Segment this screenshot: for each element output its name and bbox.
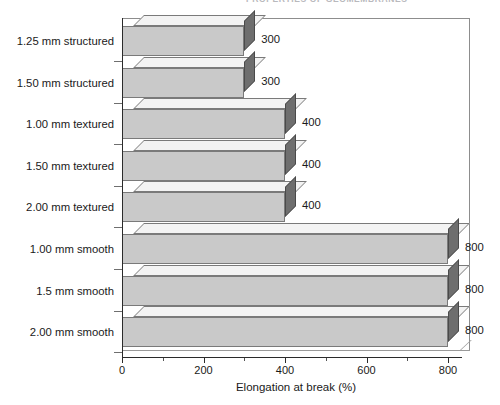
x-tick-label: 0 xyxy=(119,364,125,376)
bar-front-face xyxy=(122,151,285,181)
bar-value-label: 800 xyxy=(465,283,484,295)
y-axis-notch xyxy=(114,186,122,187)
bar-front-face xyxy=(122,234,448,264)
category-label-5: 2.00 mm textured xyxy=(0,201,114,213)
y-axis-notch xyxy=(114,311,122,312)
category-label-1: 1.25 mm structured xyxy=(0,35,114,47)
clipped-header-text: PROPERTIES OF GEOMEMBRANES xyxy=(246,0,500,4)
y-axis-notch xyxy=(114,227,122,228)
bar-value-label: 300 xyxy=(261,33,280,45)
bar-top-face xyxy=(133,98,307,109)
x-axis-line xyxy=(122,357,462,358)
bar-8 xyxy=(122,317,459,358)
bar-front-face xyxy=(122,26,244,56)
bar-value-label: 400 xyxy=(302,158,321,170)
y-axis-notch xyxy=(114,269,122,270)
bar-front-face xyxy=(122,276,448,306)
x-tick-label: 600 xyxy=(357,364,375,376)
bar-front-face xyxy=(122,192,285,222)
category-label-3: 1.00 mm textured xyxy=(0,118,114,130)
category-label-8: 2.00 mm smooth xyxy=(0,326,114,338)
bar-front-face xyxy=(122,68,244,98)
category-label-6: 1.00 mm smooth xyxy=(0,243,114,255)
y-axis-notch xyxy=(114,61,122,62)
x-tick-label: 400 xyxy=(276,364,294,376)
x-tick-label: 200 xyxy=(194,364,212,376)
category-label-4: 1.50 mm textured xyxy=(0,160,114,172)
bar-value-label: 800 xyxy=(465,324,484,336)
bar-value-label: 400 xyxy=(302,199,321,211)
category-label-7: 1.5 mm smooth xyxy=(0,285,114,297)
bar-top-face xyxy=(133,265,470,276)
y-axis-notch xyxy=(114,352,122,353)
bar-top-face xyxy=(133,140,307,151)
y-axis-line xyxy=(122,18,123,358)
bar-top-face xyxy=(133,223,470,234)
bar-value-label: 400 xyxy=(302,116,321,128)
x-axis-title: Elongation at break (%) xyxy=(122,381,470,393)
bar-front-face xyxy=(122,317,448,347)
y-axis-notch xyxy=(114,144,122,145)
category-label-2: 1.50 mm structured xyxy=(0,77,114,89)
bar-value-label: 300 xyxy=(261,75,280,87)
y-axis-notch xyxy=(114,103,122,104)
bar-value-label: 800 xyxy=(465,241,484,253)
bar-top-face xyxy=(133,306,470,317)
bar-front-face xyxy=(122,109,285,139)
bar-top-face xyxy=(133,181,307,192)
bar-chart: PROPERTIES OF GEOMEMBRANES 3003004004004… xyxy=(0,0,500,405)
x-tick-label: 800 xyxy=(439,364,457,376)
